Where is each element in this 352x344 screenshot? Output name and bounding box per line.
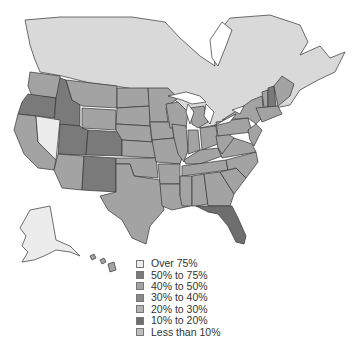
legend-swatch <box>136 305 144 313</box>
legend-swatch <box>136 294 144 302</box>
state-arizona <box>54 154 84 190</box>
state-mississippi <box>180 176 192 206</box>
legend-item-over-75: Over 75% <box>136 258 220 269</box>
legend-item-10-20: 10% to 20% <box>136 315 220 326</box>
legend-label: Over 75% <box>151 258 198 269</box>
legend-label: 10% to 20% <box>151 315 208 326</box>
legend-item-30-40: 30% to 40% <box>136 292 220 303</box>
state-alaska <box>20 206 80 262</box>
legend-item-less-10: Less than 10% <box>136 326 220 337</box>
state-new-mexico <box>82 156 116 192</box>
legend-swatch <box>136 260 144 268</box>
state-arkansas <box>158 164 180 184</box>
legend-swatch <box>136 282 144 290</box>
state-south-dakota <box>116 106 150 126</box>
legend-label: 20% to 30% <box>151 304 208 315</box>
legend-label: 40% to 50% <box>151 281 208 292</box>
legend-label: 50% to 75% <box>151 270 208 281</box>
legend-swatch <box>136 271 144 279</box>
state-nebraska <box>116 124 152 142</box>
legend-label: 30% to 40% <box>151 292 208 303</box>
state-wyoming <box>82 108 116 130</box>
state-hawaii <box>90 254 116 272</box>
state-north-dakota <box>117 88 150 108</box>
legend-swatch <box>136 317 144 325</box>
state-florida <box>196 206 246 244</box>
state-colorado <box>86 130 122 156</box>
map-legend: Over 75% 50% to 75% 40% to 50% 30% to 40… <box>136 258 220 338</box>
state-ohio <box>200 126 218 150</box>
legend-swatch <box>136 328 144 336</box>
state-utah <box>58 124 88 155</box>
state-kansas <box>122 140 156 158</box>
legend-label: Less than 10% <box>151 327 220 338</box>
state-indiana <box>188 130 200 154</box>
